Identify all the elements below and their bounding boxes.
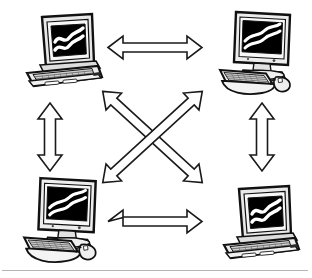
desktop-computer-icon [14, 173, 114, 265]
arrow-bottom-horizontal [108, 210, 202, 233]
desktop-computer-icon [212, 7, 306, 97]
network-diagram: Peer-to-peer computer network .arw { fil… [0, 0, 312, 278]
laptop-icon [211, 183, 307, 265]
arrow-right-vertical [250, 103, 274, 171]
laptop-icon [14, 11, 110, 93]
node-top-left[interactable]: Laptop computer [14, 11, 110, 93]
node-bottom-right[interactable]: Laptop computer [211, 183, 307, 265]
node-top-right[interactable]: Desktop computer [212, 7, 306, 97]
arrow-top-horizontal [108, 36, 202, 59]
arrow-left-vertical [38, 103, 62, 171]
node-bottom-left[interactable]: Desktop computer [14, 173, 114, 265]
